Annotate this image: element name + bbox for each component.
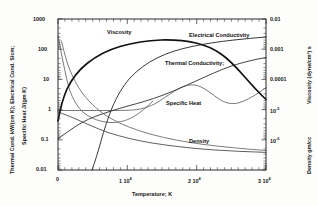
x-tick-1e4-exp: 4 xyxy=(130,176,132,181)
x-tick-3e4-exp: 4 xyxy=(269,176,271,181)
y-left-tick-1000: 1000 xyxy=(33,16,45,22)
curve-label-density: Density xyxy=(189,138,209,144)
y-left-tick-10: 10 xyxy=(43,76,49,82)
y-left-axis-title-secondary: Specific Heat J/(gm K) xyxy=(21,87,27,145)
x-tick-3e4-main: 3 10 xyxy=(258,178,269,184)
y-left-tick-0.01: 0.01 xyxy=(36,166,47,172)
y-right-tick-0.01-main: 0.01 xyxy=(270,16,281,22)
x-axis-title: Temperature; K xyxy=(132,191,172,197)
y-right-tick-1e-5-exp: -5 xyxy=(276,106,279,111)
y-left-axis-title-primary: Thermal Cond. kW/(cm K); Electrical Cond… xyxy=(9,46,15,174)
y-right-tick-1e-6: 10-6 xyxy=(270,136,279,144)
x-tick-1e4: 1 104 xyxy=(119,176,132,184)
y-right-tick-0.001-main: 0.001 xyxy=(270,46,284,52)
y-right-tick-0.001: 0.001 xyxy=(270,46,284,52)
y-right-axis-title-primary: Viscosity (dyne/cm²) s xyxy=(306,46,312,104)
curve-label-viscosity: Viscosity xyxy=(107,29,131,35)
x-tick-3e4: 3 104 xyxy=(258,176,271,184)
x-tick-2e4: 2 104 xyxy=(188,176,201,184)
y-left-tick-100: 100 xyxy=(38,46,47,52)
curve-label-thermal-conductivity: Thermal Conductivity; xyxy=(165,60,224,66)
y-right-tick-0.0001-main: 0.0001 xyxy=(270,76,287,82)
x-tick-0-main: 0 xyxy=(56,176,59,182)
y-right-axis-title-secondary: Density gm/cc xyxy=(306,137,312,174)
y-left-tick-0.1: 0.1 xyxy=(41,136,49,142)
figure-container: 1000 100 10 1 0.1 0.01 0.01 0.001 0.0001… xyxy=(0,0,317,206)
y-right-tick-1e-5: 10-5 xyxy=(270,106,279,114)
x-tick-1e4-main: 1 10 xyxy=(119,178,130,184)
x-tick-2e4-main: 2 10 xyxy=(188,178,199,184)
x-tick-0: 0 xyxy=(56,176,59,182)
y-right-tick-1e-6-exp: -6 xyxy=(276,136,279,141)
y-right-tick-0.01: 0.01 xyxy=(270,16,281,22)
curve-label-electrical-conductivity: Electrical Conductivity xyxy=(189,32,249,38)
y-right-tick-0.0001: 0.0001 xyxy=(270,76,287,82)
curve-label-specific-heat: Specific Heat xyxy=(166,100,201,106)
y-left-tick-1: 1 xyxy=(48,106,51,112)
plot-background xyxy=(58,19,266,170)
x-tick-2e4-exp: 4 xyxy=(199,176,201,181)
